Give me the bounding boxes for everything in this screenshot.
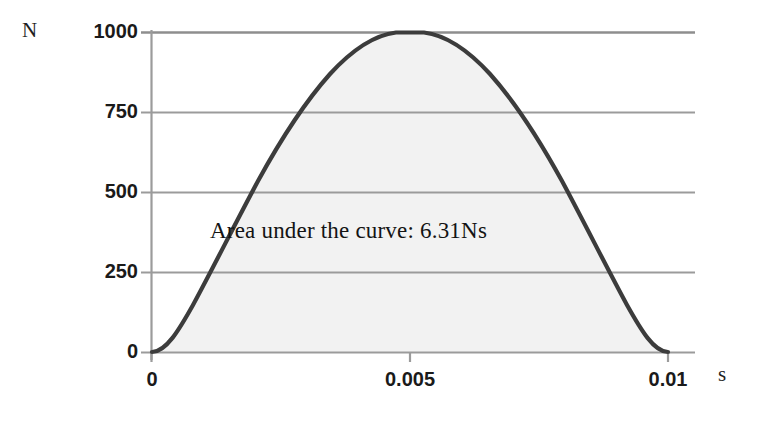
y-tick-label-250: 250 [52,260,138,283]
y-tick-label-0: 0 [52,340,138,363]
impulse-force-time-chart: N 1000 750 500 250 0 0 0.005 0.01 s Area… [0,0,775,421]
x-axis-ticks [152,353,669,363]
y-tick-label-500: 500 [52,180,138,203]
y-axis-unit-label: N [22,18,37,43]
x-tick-label-0.005: 0.005 [355,368,465,391]
area-under-curve-annotation: Area under the curve: 6.31Ns [210,218,487,244]
x-axis-unit-label: s [718,362,726,387]
y-tick-label-750: 750 [52,100,138,123]
x-tick-label-0: 0 [97,368,207,391]
y-tick-label-1000: 1000 [52,20,138,43]
x-tick-label-0.01: 0.01 [613,368,723,391]
